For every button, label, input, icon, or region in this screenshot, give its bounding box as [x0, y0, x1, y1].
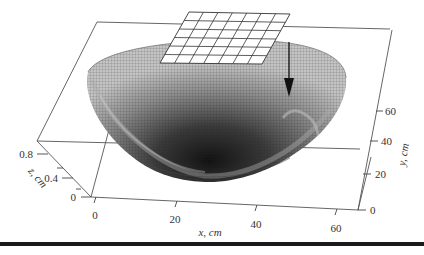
y-axis-label: y, cm	[395, 142, 411, 167]
x-tick-label: 60	[331, 222, 343, 234]
x-tick-label: 0	[92, 209, 98, 221]
surface-plot: 0 20 40 60 x, cm 0 20 40 60 y, cm 0 0.4 …	[0, 0, 424, 255]
z-axis: 0 0.4 0.8 z, cm	[19, 148, 91, 203]
z-axis-label: z, cm	[26, 164, 50, 190]
y-tick-label: 60	[385, 105, 397, 117]
y-tick-label: 40	[381, 135, 393, 147]
y-tick-label: 20	[375, 168, 387, 180]
x-tick-label: 40	[251, 218, 263, 230]
z-tick-label: 0	[71, 191, 77, 203]
x-tick-label: 20	[170, 213, 182, 225]
page-divider	[0, 242, 424, 246]
y-tick-label: 0	[370, 204, 376, 216]
z-tick-label: 0.8	[19, 148, 33, 160]
x-axis-label: x, cm	[197, 226, 221, 238]
y-axis: 0 20 40 60 y, cm	[358, 105, 411, 216]
